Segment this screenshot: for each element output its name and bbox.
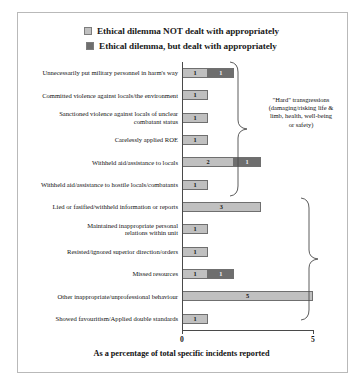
category-label: Lied or fasified/withheld information or… (20, 203, 182, 211)
bar-stack: 1 (182, 314, 208, 324)
bar-stack: 3 (182, 202, 261, 212)
bar-segment-not-dealt: 1 (182, 224, 208, 234)
chart-row: Withheld aid/assistance to locals21 (20, 151, 340, 173)
bar-value-label: 1 (194, 115, 197, 121)
bar-area: 1 (182, 174, 332, 196)
x-tick-0 (182, 330, 183, 334)
bar-stack: 1 (182, 247, 208, 257)
y-axis-tick (182, 196, 183, 200)
category-label: Unnecessarily put military personnel in … (20, 69, 182, 77)
bar-value-label: 2 (207, 159, 210, 165)
category-label: Missed resources (20, 270, 182, 278)
bar-segment-dealt: 1 (234, 157, 260, 167)
chart-figure: Ethical dilemma NOT dealt with appropria… (0, 0, 363, 385)
y-axis-tick (182, 218, 183, 222)
bar-area: 11 (182, 62, 332, 84)
chart-legend: Ethical dilemma NOT dealt with appropria… (0, 24, 363, 54)
legend-label-dealt: Ethical dilemma, but dealt with appropri… (99, 41, 277, 51)
bar-value-label: 1 (194, 249, 197, 255)
y-axis-tick (182, 62, 183, 66)
bar-stack: 1 (182, 135, 208, 145)
bar-value-label: 1 (194, 137, 197, 143)
bar-stack: 1 (182, 180, 208, 190)
y-axis-tick (182, 107, 183, 111)
bar-segment-not-dealt: 1 (182, 68, 208, 78)
bar-area: 1 (182, 129, 332, 151)
bar-area: 21 (182, 151, 332, 173)
bar-segment-not-dealt: 1 (182, 247, 208, 257)
category-label: Committed violence against locals/the en… (20, 92, 182, 100)
y-axis-tick (182, 151, 183, 155)
bar-value-label: 1 (219, 70, 222, 76)
bar-value-label: 1 (245, 159, 248, 165)
bar-segment-not-dealt: 1 (182, 180, 208, 190)
bar-stack: 5 (182, 291, 313, 301)
bar-stack: 1 (182, 113, 208, 123)
legend-swatch-dark (86, 42, 94, 50)
bar-segment-not-dealt: 3 (182, 202, 261, 212)
legend-label-not-dealt: Ethical dilemma NOT dealt with appropria… (97, 26, 279, 36)
bar-segment-not-dealt: 1 (182, 135, 208, 145)
bar-area: 1 (182, 308, 332, 330)
brace-label-hard-transgressions: "Hard" transgressions (damaging/risking … (252, 96, 350, 129)
bar-value-label: 1 (194, 92, 197, 98)
bar-area: 11 (182, 263, 332, 285)
x-tick-label-0: 0 (180, 335, 184, 344)
bar-segment-not-dealt: 2 (182, 157, 234, 167)
y-axis-tick (182, 84, 183, 88)
bar-value-label: 3 (220, 204, 223, 210)
bar-segment-not-dealt: 1 (182, 113, 208, 123)
bar-stack: 1 (182, 224, 208, 234)
bar-stack: 1 (182, 90, 208, 100)
category-label: Sanctioned violence against locals of un… (20, 110, 182, 125)
x-tick-label-5: 5 (311, 335, 315, 344)
bar-value-label: 1 (194, 271, 197, 277)
bar-value-label: 1 (194, 70, 197, 76)
bar-area: 1 (182, 218, 332, 240)
bar-segment-dealt: 1 (208, 68, 234, 78)
bar-stack: 11 (182, 68, 234, 78)
y-axis-tick (182, 308, 183, 312)
chart-row: Missed resources11 (20, 263, 340, 285)
y-axis-tick (182, 285, 183, 289)
chart-row: Unnecessarily put military personnel in … (20, 62, 340, 84)
category-label: Carelessly applied ROE (20, 136, 182, 144)
bar-area: 5 (182, 285, 332, 307)
x-axis-title: As a percentage of total specific incide… (0, 349, 363, 358)
y-axis-tick (182, 129, 183, 133)
bar-segment-dealt: 1 (208, 269, 234, 279)
bar-segment-not-dealt: 1 (182, 269, 208, 279)
category-label: Showed favouritism/Applied double standa… (20, 315, 182, 323)
category-label: Maintained inappropriate personal relati… (20, 222, 182, 237)
category-label: Withheld aid/assistance to locals (20, 159, 182, 167)
category-label: Other inappropriate/unprofessional behav… (20, 293, 182, 301)
legend-item-dealt: Ethical dilemma, but dealt with appropri… (0, 39, 363, 53)
legend-item-not-dealt: Ethical dilemma NOT dealt with appropria… (0, 24, 363, 38)
bar-area: 3 (182, 196, 332, 218)
y-axis-tick (182, 263, 183, 267)
bar-value-label: 1 (194, 316, 197, 322)
bar-stack: 11 (182, 269, 234, 279)
chart-row: Lied or fasified/withheld information or… (20, 196, 340, 218)
bar-area: 1 (182, 241, 332, 263)
bar-segment-not-dealt: 1 (182, 314, 208, 324)
y-axis-tick (182, 174, 183, 178)
bar-value-label: 1 (194, 182, 197, 188)
category-label: Withheld aid/assistance to hostile local… (20, 181, 182, 189)
bar-value-label: 1 (194, 226, 197, 232)
chart-row: Showed favouritism/Applied double standa… (20, 308, 340, 330)
bar-stack: 21 (182, 157, 261, 167)
chart-row: Resisted/ignored superior direction/orde… (20, 241, 340, 263)
chart-row: Maintained inappropriate personal relati… (20, 218, 340, 240)
chart-row: Withheld aid/assistance to hostile local… (20, 174, 340, 196)
legend-swatch-light (84, 27, 92, 35)
x-axis-line (182, 330, 313, 331)
chart-row: Carelessly applied ROE1 (20, 129, 340, 151)
bar-segment-not-dealt: 5 (182, 291, 313, 301)
bar-value-label: 1 (219, 271, 222, 277)
category-label: Resisted/ignored superior direction/orde… (20, 248, 182, 256)
bar-value-label: 5 (246, 293, 249, 299)
chart-row: Other inappropriate/unprofessional behav… (20, 285, 340, 307)
bar-segment-not-dealt: 1 (182, 90, 208, 100)
x-tick-5 (313, 330, 314, 334)
